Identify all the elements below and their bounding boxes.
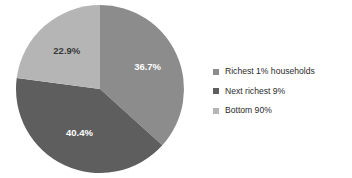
legend-item-label: Next richest 9% [225,87,285,96]
pie-svg: 36.7% 40.4% 22.9% [0,0,200,178]
legend-item-label: Bottom 90% [225,106,272,115]
legend-item-next-richest-9-percent[interactable]: Next richest 9% [213,82,352,102]
pie-slices [16,5,184,173]
pie-data-label-bottom-90-percent: 22.9% [53,45,80,56]
pie-data-label-richest-1-percent: 36.7% [134,61,161,72]
legend-swatch-icon [213,69,219,75]
legend-item-label: Richest 1% households [225,67,315,76]
legend-swatch-icon [213,88,219,94]
pie-chart-figure: 36.7% 40.4% 22.9% Richest 1% households … [0,0,352,178]
legend-item-richest-1-percent[interactable]: Richest 1% households [213,62,352,82]
pie-data-label-next-richest-9-percent: 40.4% [66,127,93,138]
legend-swatch-icon [213,108,219,114]
chart-legend: Richest 1% households Next richest 9% Bo… [213,62,352,121]
legend-item-bottom-90-percent[interactable]: Bottom 90% [213,101,352,121]
pie-plot-area: 36.7% 40.4% 22.9% [0,0,200,178]
